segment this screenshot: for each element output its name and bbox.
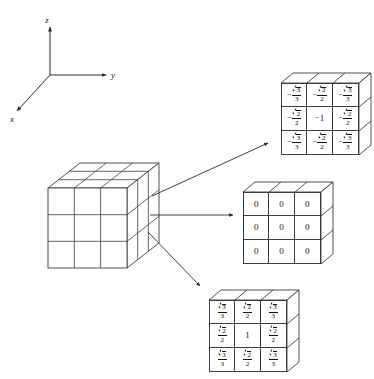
fraction-denominator: 3 (272, 360, 276, 368)
whole-number: 0 (254, 247, 259, 256)
fraction: 33 (269, 351, 278, 367)
fraction: 22 (317, 134, 326, 150)
cell-value: 22 (218, 327, 227, 343)
cell-value: −22 (287, 110, 301, 126)
axis-label-y: y (110, 70, 115, 80)
cell-value: 22 (269, 327, 278, 343)
grid-cell: 0 (295, 193, 320, 216)
whole-number: 0 (279, 200, 284, 209)
fraction-numerator: 2 (343, 110, 352, 119)
axis-label-z: z (44, 15, 49, 25)
figure-root: z y x −33−22−33−22−1−22−33−22−33 0000000… (0, 0, 374, 379)
minus-sign: − (287, 138, 292, 146)
fraction-denominator: 3 (220, 313, 224, 321)
radical-symbol: 3 (293, 87, 300, 94)
cell-value: −33 (287, 134, 301, 150)
cell-value: −22 (312, 134, 326, 150)
grid-cell: −33 (333, 131, 358, 154)
top-layer-grid: −33−22−33−22−1−22−33−22−33 (281, 83, 359, 155)
grid-cell: 33 (261, 348, 286, 371)
radical-symbol: 3 (344, 134, 351, 141)
source-cube (48, 163, 159, 268)
radical-symbol: 3 (270, 304, 277, 311)
fraction: 33 (269, 304, 278, 320)
cell-value: 33 (269, 351, 278, 367)
radical-symbol: 3 (344, 87, 351, 94)
grid-cell: −22 (282, 107, 307, 130)
fraction-denominator: 2 (272, 336, 276, 344)
fraction-denominator: 3 (346, 143, 350, 151)
whole-number: 0 (279, 223, 284, 232)
grid-cell: −22 (307, 131, 332, 154)
fraction-numerator: 3 (343, 134, 352, 143)
radical-symbol: 2 (318, 134, 325, 141)
grid-cell: 0 (295, 216, 320, 239)
fraction: 33 (343, 134, 352, 150)
cell-value: −33 (338, 87, 352, 103)
cell-value: 22 (243, 304, 252, 320)
whole-number: 1 (245, 331, 250, 340)
minus-sign: − (287, 91, 292, 99)
radical-symbol: 3 (219, 351, 226, 358)
minus-sign: − (312, 138, 317, 146)
cell-value: 33 (218, 304, 227, 320)
whole-number: 0 (305, 247, 310, 256)
cell-value: 0 (279, 200, 284, 209)
grid-cell: 33 (210, 348, 235, 371)
fraction: 22 (269, 327, 278, 343)
fraction-numerator: 3 (269, 351, 278, 360)
cell-value: −33 (338, 134, 352, 150)
whole-number: 0 (305, 200, 310, 209)
whole-number: 0 (254, 223, 259, 232)
radical-symbol: 2 (244, 304, 251, 311)
grid-cell: −33 (282, 84, 307, 107)
middle-layer-slab: 000000000 (243, 192, 321, 264)
radical-symbol: 2 (318, 87, 325, 94)
axis-x-line (17, 75, 50, 111)
fraction-numerator: 2 (269, 327, 278, 336)
fraction-denominator: 3 (272, 313, 276, 321)
cell-value: −33 (287, 87, 301, 103)
grid-cell: −1 (307, 107, 332, 130)
figure-vector-layer: z y x (0, 0, 374, 379)
minus-sign: − (338, 138, 343, 146)
fraction-denominator: 2 (295, 119, 299, 127)
radical-symbol: 2 (293, 110, 300, 117)
grid-cell: 33 (261, 301, 286, 324)
fraction: 22 (243, 351, 252, 367)
fraction-denominator: 3 (220, 360, 224, 368)
grid-cell: 33 (210, 301, 235, 324)
whole-number: 0 (305, 223, 310, 232)
fraction-denominator: 2 (246, 313, 250, 321)
minus-sign: − (312, 91, 317, 99)
cell-value: 0 (254, 247, 259, 256)
grid-cell: −33 (282, 131, 307, 154)
radical-symbol: 3 (293, 134, 300, 141)
fraction: 33 (218, 304, 227, 320)
grid-cell: 0 (269, 240, 294, 263)
fraction: 33 (343, 87, 352, 103)
fraction-denominator: 2 (320, 96, 324, 104)
radical-symbol: 3 (270, 351, 277, 358)
fraction-denominator: 2 (320, 143, 324, 151)
grid-cell: 0 (244, 216, 269, 239)
cell-value: 0 (279, 247, 284, 256)
fraction-denominator: 3 (295, 96, 299, 104)
grid-cell: −22 (307, 84, 332, 107)
minus-sign: − (338, 114, 343, 122)
radical-symbol: 2 (270, 327, 277, 334)
fraction: 22 (343, 110, 352, 126)
cell-value: 0 (305, 200, 310, 209)
axis-label-x: x (9, 114, 14, 124)
cell-value: 22 (243, 351, 252, 367)
fraction-numerator: 2 (243, 351, 252, 360)
whole-number: 0 (279, 247, 284, 256)
fraction-denominator: 3 (346, 96, 350, 104)
cell-value: 0 (254, 200, 259, 209)
grid-cell: 0 (269, 193, 294, 216)
fraction: 33 (292, 134, 301, 150)
fraction-denominator: 2 (246, 360, 250, 368)
grid-cell: 22 (235, 348, 260, 371)
coordinate-axes (17, 27, 106, 111)
radical-symbol: 2 (219, 327, 226, 334)
